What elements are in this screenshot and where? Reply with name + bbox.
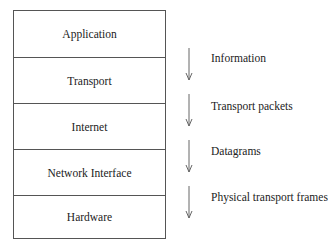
- layer-transport: Transport: [14, 57, 165, 103]
- layer-label: Network Interface: [48, 167, 132, 179]
- transition-label-information: Information: [211, 52, 266, 64]
- layer-application: Application: [14, 11, 165, 57]
- layer-label: Transport: [67, 75, 111, 87]
- layer-hardware: Hardware: [14, 195, 165, 238]
- transition-label-transport-packets: Transport packets: [211, 100, 293, 112]
- down-arrow-icon: [184, 48, 194, 81]
- transition-label-datagrams: Datagrams: [211, 145, 261, 157]
- down-arrow-icon: [184, 94, 194, 127]
- layer-label: Application: [62, 28, 116, 40]
- transition-label-physical-transport-frames: Physical transport frames: [211, 191, 328, 203]
- layer-internet: Internet: [14, 103, 165, 149]
- layer-stack: Application Transport Internet Network I…: [13, 10, 166, 239]
- layer-network-interface: Network Interface: [14, 149, 165, 195]
- layer-label: Internet: [72, 121, 108, 133]
- down-arrow-icon: [184, 140, 194, 173]
- layer-label: Hardware: [67, 211, 112, 223]
- down-arrow-icon: [184, 186, 194, 219]
